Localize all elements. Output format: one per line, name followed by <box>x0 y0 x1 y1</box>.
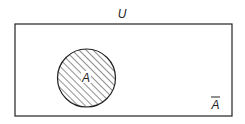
complement-label: A <box>210 98 219 112</box>
universe-label: U <box>118 7 127 21</box>
universe-rectangle <box>15 24 232 116</box>
venn-diagram: U A A <box>0 0 245 124</box>
set-a-label: A <box>81 71 90 85</box>
